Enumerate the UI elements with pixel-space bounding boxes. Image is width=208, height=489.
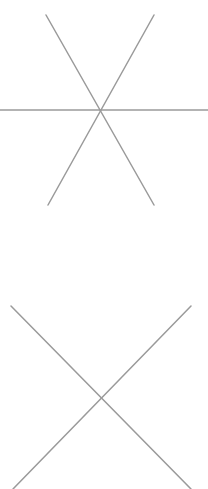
x-cross-lines <box>11 306 191 489</box>
x-cross-icon <box>0 220 208 489</box>
x-cross-figure <box>0 220 208 489</box>
asterisk-lines <box>0 15 208 205</box>
asterisk-icon <box>0 0 208 220</box>
asterisk-figure <box>0 0 208 220</box>
